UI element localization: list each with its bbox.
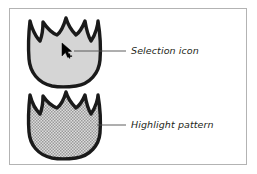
annotation-label-selection-icon: Selection icon xyxy=(131,45,199,57)
figure-container: Selection icon Highlight pattern xyxy=(0,0,257,174)
annotation-label-highlight-pattern: Highlight pattern xyxy=(131,119,214,131)
figure-graphics xyxy=(0,0,257,174)
tulip-outline-patterned xyxy=(29,92,101,159)
tulip-shape-patterned[interactable] xyxy=(29,92,101,159)
